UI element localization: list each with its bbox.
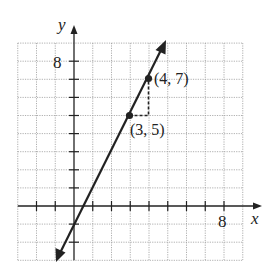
y-axis-arrow-icon xyxy=(71,25,78,34)
point-label-4-7: (4, 7) xyxy=(154,70,189,88)
x-axis-label: x xyxy=(250,209,259,228)
x-tick-label-8: 8 xyxy=(218,212,227,231)
point-label-3-5: (3, 5) xyxy=(130,121,165,139)
line-arrow-top-icon xyxy=(156,40,167,55)
point-3-5 xyxy=(126,112,133,119)
grid xyxy=(18,43,243,260)
y-axis-label: y xyxy=(56,15,66,34)
y-tick-label-8: 8 xyxy=(53,53,62,72)
coordinate-plane: y x 8 8 (4, 7) (3, 5) xyxy=(0,0,276,268)
point-4-7 xyxy=(145,75,152,82)
